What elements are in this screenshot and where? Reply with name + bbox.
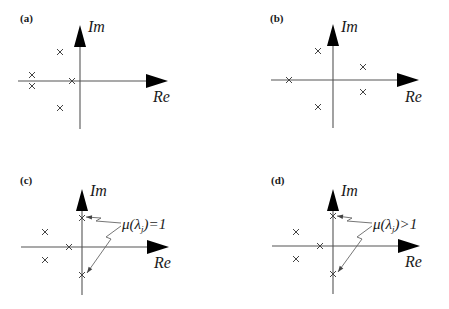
imaginary-axis-label: Im <box>89 182 107 199</box>
panel-label: (d) <box>271 174 285 187</box>
imaginary-axis-label: Im <box>340 182 358 199</box>
pointer-arrow-icon <box>338 266 343 272</box>
pointer-arrow-icon <box>86 215 92 219</box>
panel-b: (b)ImRe <box>270 12 422 128</box>
panel-c: (c)ImReμ(λj)=1 <box>20 174 171 295</box>
pole-cross-icon <box>57 49 63 55</box>
pole-cross-icon <box>293 256 299 262</box>
imaginary-axis-arrow-icon <box>327 24 339 46</box>
pole-cross-icon <box>360 89 366 95</box>
pointer-line <box>338 226 372 272</box>
pointer-arrow-icon <box>337 215 343 219</box>
pole-cross-icon <box>42 229 48 235</box>
panel-label: (a) <box>20 12 33 25</box>
pole-cross-icon <box>315 48 321 54</box>
imaginary-axis-arrow-icon <box>74 25 86 47</box>
pole-cross-icon <box>315 104 321 110</box>
pointer-line <box>87 226 121 273</box>
real-axis-arrow-icon <box>397 73 419 87</box>
real-axis-arrow-icon <box>147 240 169 254</box>
pole-diagram-figure: (a)ImRe(b)ImRe(c)ImReμ(λj)=1(d)ImReμ(λj)… <box>0 0 449 309</box>
imaginary-axis-label: Im <box>87 18 105 35</box>
multiplicity-annotation: μ(λj)=1 <box>121 216 166 234</box>
real-axis-label: Re <box>404 253 422 270</box>
panel-label: (b) <box>270 12 284 25</box>
pole-cross-icon <box>29 83 35 89</box>
panel-label: (c) <box>20 174 33 187</box>
real-axis-label: Re <box>404 88 422 105</box>
panel-d: (d)ImReμ(λj)>1 <box>271 174 422 294</box>
pole-cross-icon <box>42 257 48 263</box>
panel-a: (a)ImRe <box>18 12 170 129</box>
multiplicity-annotation: μ(λj)>1 <box>372 216 417 234</box>
pole-cross-icon <box>57 105 63 111</box>
imaginary-axis-label: Im <box>340 18 358 35</box>
pole-cross-icon <box>360 64 366 70</box>
imaginary-axis-arrow-icon <box>327 189 339 211</box>
pole-cross-icon <box>29 72 35 78</box>
real-axis-arrow-icon <box>398 239 420 253</box>
real-axis-label: Re <box>153 254 171 271</box>
pole-cross-icon <box>293 229 299 235</box>
real-axis-label: Re <box>152 88 170 105</box>
pointer-arrow-icon <box>87 267 92 273</box>
imaginary-axis-arrow-icon <box>76 189 88 211</box>
real-axis-arrow-icon <box>146 74 168 88</box>
